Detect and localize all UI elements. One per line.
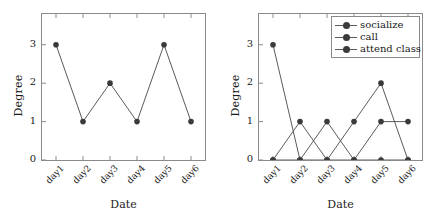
- line-series-left: [42, 14, 205, 160]
- chart-panel-right: Degree Date 0123 day1day2day3day4day5day…: [222, 0, 445, 221]
- y-tick-label: 3: [237, 38, 253, 49]
- data-point: [378, 80, 384, 86]
- data-point: [80, 119, 86, 125]
- data-point: [405, 119, 411, 125]
- plot-area-left: [41, 13, 206, 161]
- data-point: [405, 157, 411, 160]
- legend-label: socialize: [360, 20, 404, 30]
- data-point: [107, 80, 113, 86]
- x-axis-label-right: Date: [258, 198, 423, 211]
- legend-item: attend class: [335, 43, 415, 55]
- series-line: [56, 45, 191, 122]
- data-point: [161, 42, 167, 48]
- data-point: [297, 119, 303, 125]
- y-tick-label: 1: [20, 115, 36, 126]
- x-axis-label-left: Date: [41, 198, 206, 211]
- data-point: [188, 119, 194, 125]
- y-tick-label: 1: [237, 115, 253, 126]
- legend-label: call: [360, 32, 378, 42]
- figure-two-line-charts: Degree Date 0123 day1day2day3day4day5day…: [0, 0, 445, 221]
- data-point: [270, 42, 276, 48]
- y-tick-label: 0: [20, 153, 36, 164]
- data-point: [351, 119, 357, 125]
- chart-panel-left: Degree Date 0123 day1day2day3day4day5day…: [0, 0, 222, 221]
- legend-item: socialize: [335, 19, 415, 31]
- data-point: [53, 42, 59, 48]
- legend-marker-icon: [335, 32, 357, 42]
- data-point: [134, 119, 140, 125]
- y-tick-label: 3: [20, 38, 36, 49]
- data-point: [378, 157, 384, 160]
- legend-marker-icon: [335, 44, 357, 54]
- legend-item: call: [335, 31, 415, 43]
- legend: socializecallattend class: [331, 16, 420, 58]
- y-tick-label: 0: [237, 153, 253, 164]
- data-point: [378, 119, 384, 125]
- y-tick-label: 2: [237, 76, 253, 87]
- legend-marker-icon: [335, 20, 357, 30]
- legend-label: attend class: [360, 44, 421, 54]
- series-line: [273, 122, 408, 160]
- data-point: [324, 119, 330, 125]
- y-tick-label: 2: [20, 76, 36, 87]
